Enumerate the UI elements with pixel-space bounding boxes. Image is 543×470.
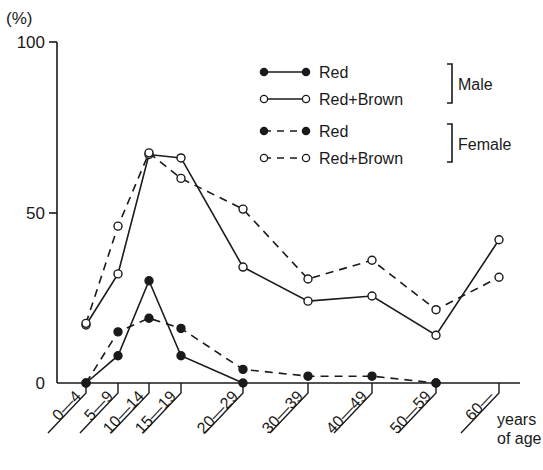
legend-label: Red+Brown <box>319 150 403 167</box>
data-point <box>495 273 503 281</box>
y-tick-labels: 050100 <box>17 33 45 393</box>
data-point <box>304 297 312 305</box>
data-point <box>304 275 312 283</box>
x-tick: 15—19 <box>132 383 181 437</box>
x-tick: 40—49 <box>323 383 372 437</box>
data-point <box>114 328 122 336</box>
x-tick: 60— <box>461 383 499 433</box>
x-tick-label: 60— <box>462 387 497 423</box>
data-point <box>368 256 376 264</box>
x-tick: 50—59 <box>387 383 436 437</box>
x-tick-label: 30—39 <box>259 387 307 436</box>
data-point <box>239 365 247 373</box>
legend-entry: Red+Brown <box>260 91 403 108</box>
x-tick: 0—4 <box>48 383 86 433</box>
x-tick-label: 40—49 <box>323 387 371 436</box>
data-point <box>239 379 247 387</box>
data-point <box>145 314 153 322</box>
data-point <box>239 205 247 213</box>
data-point <box>177 324 185 332</box>
legend-entry: Red <box>260 123 348 140</box>
line-chart: (%) 050100 0—45—910—1415—1920—2930—3940—… <box>0 0 543 470</box>
y-tick-label: 100 <box>17 33 45 52</box>
x-tick-label: 0—4 <box>49 387 85 423</box>
y-tick-label: 0 <box>36 374 45 393</box>
data-point <box>114 352 122 360</box>
data-series <box>82 149 503 387</box>
legend-bracket <box>447 64 452 103</box>
data-point <box>239 263 247 271</box>
legend-label: Red+Brown <box>319 91 403 108</box>
data-point <box>82 379 90 387</box>
x-axis-label-line1: years <box>497 411 536 428</box>
series-female-red-brown <box>82 149 503 328</box>
x-tick-labels: 0—45—910—1415—1920—2930—3940—4950—5960— <box>48 383 499 437</box>
legend-entry: Red+Brown <box>260 150 403 167</box>
legend-group-label: Male <box>458 76 493 93</box>
legend: RedRed+BrownRedRed+BrownMaleFemale <box>260 64 511 167</box>
y-axis-unit-label: (%) <box>6 9 32 28</box>
x-tick-label: 20—29 <box>194 387 242 436</box>
y-tick-label: 50 <box>26 204 45 223</box>
data-point <box>368 372 376 380</box>
data-point <box>177 174 185 182</box>
data-point <box>145 149 153 157</box>
legend-group-label: Female <box>458 136 511 153</box>
legend-label: Red <box>319 64 348 81</box>
series-male-red <box>82 277 440 387</box>
data-point <box>82 319 90 327</box>
legend-bracket <box>447 124 452 162</box>
data-point <box>495 236 503 244</box>
data-point <box>304 372 312 380</box>
data-point <box>145 277 153 285</box>
data-point <box>432 379 440 387</box>
data-point <box>114 270 122 278</box>
series-female-red <box>82 314 440 387</box>
x-axis-label-line2: of age <box>497 430 542 447</box>
data-point <box>432 306 440 314</box>
data-point <box>114 222 122 230</box>
data-point <box>368 292 376 300</box>
x-tick: 20—29 <box>194 383 243 437</box>
x-tick: 30—39 <box>259 383 308 437</box>
x-tick-label: 50—59 <box>387 387 435 436</box>
data-point <box>177 352 185 360</box>
legend-label: Red <box>319 123 348 140</box>
legend-entry: Red <box>260 64 348 81</box>
data-point <box>432 331 440 339</box>
data-point <box>177 154 185 162</box>
